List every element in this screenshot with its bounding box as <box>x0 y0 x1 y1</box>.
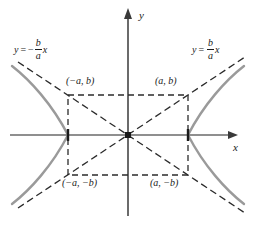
asymptote-left-fraction: b a <box>35 38 42 61</box>
asymptote-left-equation-label: y = − b a x <box>14 38 47 61</box>
point-label-bottom-right: (a, −b) <box>150 178 178 188</box>
asymptote-right-denominator: a <box>207 51 214 61</box>
asymptote-positive-slope <box>18 57 245 208</box>
figure-canvas <box>0 0 258 226</box>
asymptote-right-lhs: y <box>192 45 196 55</box>
x-axis-label: x <box>233 142 238 153</box>
asymptote-right-equals: = <box>198 45 204 55</box>
asymptote-left-denominator: a <box>35 51 42 61</box>
origin-marker <box>125 132 131 138</box>
x-axis-arrowhead <box>228 131 238 139</box>
point-label-top-right: (a, b) <box>155 76 177 86</box>
asymptote-right-equation-label: y = b a x <box>192 38 220 61</box>
asymptote-negative-slope <box>18 62 245 213</box>
asymptote-left-equals: = <box>20 45 26 55</box>
asymptote-right-variable: x <box>215 45 219 55</box>
asymptote-right-fraction: b a <box>207 38 214 61</box>
asymptote-left-variable: x <box>43 45 47 55</box>
point-label-bottom-left: (−a, −b) <box>62 178 97 188</box>
asymptote-left-numerator: b <box>35 38 42 48</box>
asymptote-left-lhs: y <box>14 45 18 55</box>
y-axis-arrowhead <box>124 8 132 19</box>
y-axis-label: y <box>139 10 144 21</box>
point-label-top-left: (−a, b) <box>66 76 94 86</box>
hyperbola-figure: y x y = − b a x y = b a x (−a, b) (a, b)… <box>0 0 258 226</box>
asymptote-right-numerator: b <box>207 38 214 48</box>
asymptote-left-minus-sign: − <box>28 45 34 55</box>
